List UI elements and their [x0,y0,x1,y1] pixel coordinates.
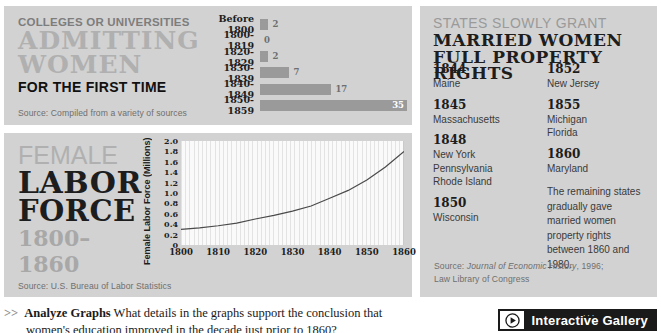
bar-fill [260,67,289,78]
play-circle-icon[interactable] [500,311,524,329]
colleges-bar-chart: Before 180021800-181901820-182921830-183… [202,17,407,115]
states-source: Source: Journal of Economic History, 199… [434,260,603,285]
gallery-dots-decor: ··· [583,312,596,319]
labor-title-force: FORCE [18,198,138,226]
state-name: Rhode Island [433,175,531,189]
x-tick-label: 1860 [392,247,416,257]
x-tick-label: 1830 [281,247,305,257]
line-chart-y-axis-label: Female Labor Force (Millions) [140,145,154,257]
y-tick-label: 1.4 [164,167,178,177]
colleges-heading-block: COLLEGES OR UNIVERSITIES ADMITTING WOMEN… [18,16,198,95]
state-name: Michigan [547,113,645,127]
state-year-group: 1845Massachusetts [433,98,531,127]
line-chart-plot-area [181,141,404,245]
state-year: 1855 [547,98,645,113]
infographic-root: COLLEGES OR UNIVERSITIES ADMITTING WOMEN… [0,0,661,333]
states-source-line2: Law Library of Congress [434,274,529,284]
state-year-group: 1855MichiganFlorida [547,98,645,140]
states-source-prefix: Source: [434,261,467,271]
state-year: 1845 [433,98,531,113]
y-tick-label: 1.6 [164,157,178,167]
labor-heading-block: FEMALE LABOR FORCE 1800–1860 [18,143,138,277]
bar-fill [260,51,268,62]
states-source-journal: Journal of Economic History [467,261,577,271]
x-tick-label: 1840 [318,247,342,257]
bar-row: 1850-185935 [202,98,407,112]
colleges-subtitle: FOR THE FIRST TIME [18,79,198,95]
interactive-gallery-button[interactable]: ··· Interactive Gallery [498,309,657,331]
bar-track: 2 [260,51,407,62]
bar-track: 7 [260,67,407,78]
x-tick-label: 1850 [355,247,379,257]
state-name: New York [433,148,531,162]
line-chart-series-path [181,141,404,245]
colleges-admitting-women-panel: COLLEGES OR UNIVERSITIES ADMITTING WOMEN… [4,6,412,125]
state-year-group: 1844Maine [433,62,531,91]
labor-source: Source: U.S. Bureau of Labor Statistics [18,281,171,291]
bar-fill [260,19,268,30]
prompt-line1: What details in the graphs support the c… [111,306,383,320]
state-year: 1852 [547,62,645,77]
y-tick-label: 1.8 [164,146,178,156]
bar-track: 2 [260,19,407,30]
female-labor-force-panel: FEMALE LABOR FORCE 1800–1860 Female Labo… [4,133,412,297]
analyze-graphs-prompt: >>Analyze Graphs What details in the gra… [4,305,474,333]
bar-track: 0 [260,35,407,46]
state-year: 1860 [547,147,645,162]
prompt-line2: women's education improved in the decade… [26,322,474,333]
x-tick-label: 1810 [206,247,230,257]
y-tick-label: 2.0 [164,136,178,146]
labor-title-years: 1800–1860 [18,225,138,277]
state-name: Maryland [547,162,645,176]
bar-track: 35 [260,100,407,111]
states-kicker: STATES SLOWLY GRANT [433,16,645,31]
states-column-right: 1852New Jersey1855MichiganFlorida1860Mar… [547,62,645,272]
bar-value-label: 35 [392,100,404,111]
y-tick-label: 0.6 [164,209,178,219]
colleges-title-women: WOMEN [18,53,198,77]
state-year-group: 1848New YorkPennsylvaniaRhode Island [433,133,531,189]
y-tick-label: 1.0 [164,188,178,198]
state-year: 1848 [433,133,531,148]
bar-fill [260,84,331,95]
y-tick-label: 0.8 [164,198,178,208]
bar-value-label: 7 [293,67,299,78]
state-year-group: 1850Wisconsin [433,196,531,225]
bar-value-label: 0 [264,35,270,46]
state-name: Florida [547,126,645,140]
state-year: 1844 [433,62,531,77]
y-tick-label: 0.4 [164,219,178,229]
female-labor-force-line-chart: Female Labor Force (Millions) 00.20.40.6… [144,141,406,269]
bar-track: 17 [260,84,407,95]
bar-fill [260,100,407,111]
prompt-bold-label: Analyze Graphs [24,306,110,320]
states-year-columns: 1844Maine1845Massachusetts1848New YorkPe… [433,62,648,272]
chevron-right-icon: >> [4,306,18,320]
x-tick-label: 1800 [169,247,193,257]
line-chart-y-ticks: 00.20.40.60.81.01.21.41.61.82.0 [156,141,178,245]
colleges-source: Source: Compiled from a variety of sourc… [18,108,187,118]
footer: >>Analyze Graphs What details in the gra… [0,303,661,333]
state-name: Pennsylvania [433,162,531,176]
y-tick-label: 1.2 [164,178,178,188]
y-tick-label: 0.2 [164,230,178,240]
interactive-gallery-label[interactable]: ··· Interactive Gallery [524,311,655,329]
states-remaining-note: The remaining states gradually gave marr… [547,185,645,272]
states-property-rights-panel: STATES SLOWLY GRANT MARRIED WOMEN FULL P… [420,6,657,297]
state-name: Wisconsin [433,211,531,225]
state-name: Maine [433,77,531,91]
states-source-suffix: , 1996; [577,261,604,271]
state-year: 1850 [433,196,531,211]
state-year-group: 1852New Jersey [547,62,645,91]
state-name: New Jersey [547,77,645,91]
states-column-left: 1844Maine1845Massachusetts1848New YorkPe… [433,62,531,272]
line-chart-x-ticks: 1800181018201830184018501860 [181,247,404,261]
x-tick-label: 1820 [243,247,267,257]
bar-value-label: 17 [335,84,347,95]
state-name: Massachusetts [433,113,531,127]
bar-value-label: 2 [272,19,278,30]
bar-category-label: 1850-1859 [202,94,260,116]
bar-value-label: 2 [272,51,278,62]
state-year-group: 1860Maryland [547,147,645,176]
